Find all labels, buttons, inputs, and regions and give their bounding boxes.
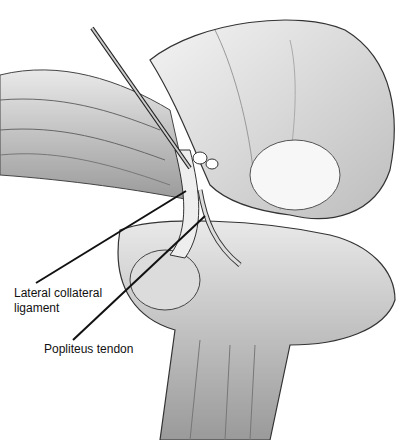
label-line: ligament: [14, 301, 102, 316]
label-line: Popliteus tendon: [44, 342, 133, 357]
label-popliteus-tendon: Popliteus tendon: [44, 342, 133, 357]
label-line: Lateral collateral: [14, 286, 102, 301]
knee-illustration: [0, 0, 410, 440]
label-lateral-collateral-ligament: Lateral collateral ligament: [14, 286, 102, 316]
